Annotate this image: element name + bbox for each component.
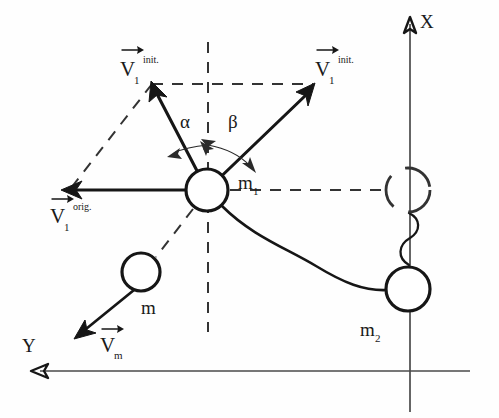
parallelogram-left-dashed-line bbox=[68, 84, 152, 192]
vector-vm-symbol: V bbox=[100, 333, 115, 357]
mass-m1-circle[interactable] bbox=[186, 169, 228, 211]
vector-v1-orig-label: V 1 orig. bbox=[50, 195, 92, 233]
vector-v1-orig-symbol: V bbox=[50, 204, 65, 228]
ghost-position-circle bbox=[386, 168, 430, 212]
alpha-label: α bbox=[180, 111, 190, 132]
vector-v1-init-right-symbol: V bbox=[315, 57, 330, 81]
vector-v1-init-right-label: V 1 init. bbox=[315, 46, 354, 86]
vector-vm-subscript: m bbox=[114, 349, 123, 361]
vector-overbar-arrowhead-icon bbox=[137, 46, 144, 54]
vector-v1-init-right-subscript: 1 bbox=[329, 74, 335, 86]
mass-m2-label-text: m bbox=[360, 319, 375, 340]
vector-v1-init-left-subscript: 1 bbox=[134, 74, 140, 86]
x-axis-label: X bbox=[420, 11, 434, 32]
vector-v1-orig-subscript: 1 bbox=[64, 221, 70, 233]
mass-m1-label-subscript: 1 bbox=[253, 185, 259, 197]
mass-m2-label-subscript: 2 bbox=[375, 332, 381, 344]
beta-arc-arrowhead-right bbox=[242, 157, 256, 173]
vector-vm-shaft bbox=[86, 290, 134, 329]
mass-m-circle[interactable] bbox=[122, 253, 160, 291]
vector-v1-init-right-superscript: init. bbox=[338, 54, 354, 65]
y-axis-label: Y bbox=[22, 335, 36, 356]
vector-v1-orig-superscript: orig. bbox=[73, 201, 92, 212]
vector-overbar-arrowhead-icon bbox=[117, 325, 124, 333]
alpha-arc-arrowhead-left bbox=[167, 148, 182, 159]
vector-v1-init-left-label: V 1 init. bbox=[120, 46, 159, 86]
mass-m-label-text: m bbox=[141, 297, 156, 318]
cord-m1-to-m2 bbox=[222, 206, 387, 290]
m1-to-m-dashed-link bbox=[156, 209, 193, 257]
mass-m2-label: m 2 bbox=[360, 319, 381, 344]
vector-v1-init-left-symbol: V bbox=[120, 57, 135, 81]
physics-diagram-canvas: X Y m 1 m m 2 α β V 1 init. bbox=[0, 0, 499, 418]
vector-v1-init-left-superscript: init. bbox=[143, 54, 159, 65]
mass-m2-circle[interactable] bbox=[386, 267, 430, 311]
vector-vm-label: V m bbox=[100, 325, 124, 361]
axes-group bbox=[31, 17, 470, 412]
mass-m1-label-text: m bbox=[238, 172, 253, 193]
mass-m1-label: m 1 bbox=[238, 172, 259, 197]
beta-label: β bbox=[228, 111, 238, 132]
vector-overbar-arrowhead-icon bbox=[332, 46, 339, 54]
vector-diagram: X Y m 1 m m 2 α β V 1 init. bbox=[0, 0, 499, 418]
